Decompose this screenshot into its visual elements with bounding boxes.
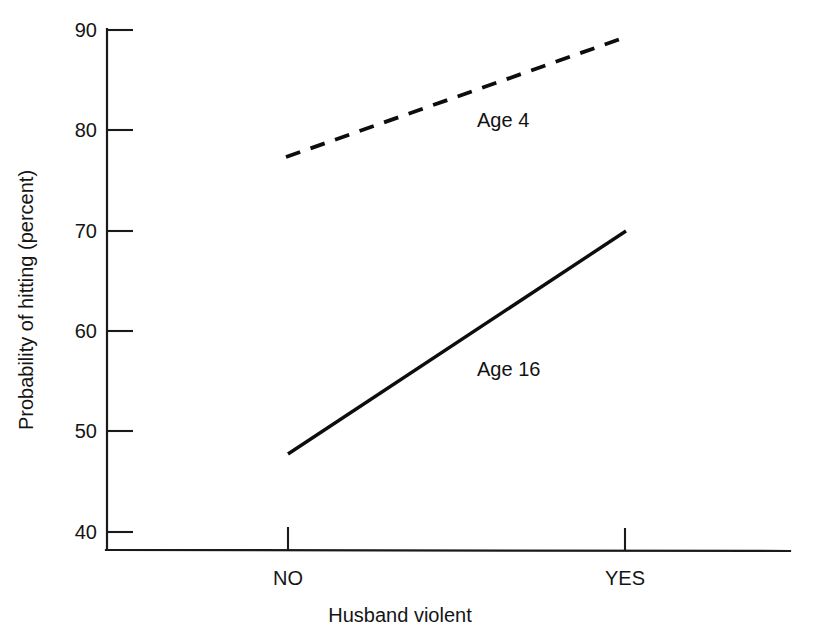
- y-axis: 90 80 70 60 50 40 Probability of hitting…: [15, 19, 133, 549]
- y-axis-title: Probability of hitting (percent): [15, 170, 37, 430]
- series-label-age-16: Age 16: [477, 358, 540, 380]
- y-tick-label-70: 70: [75, 220, 97, 242]
- x-axis: NO YES Husband violent: [106, 527, 790, 626]
- y-tick-label-90: 90: [75, 19, 97, 41]
- x-tick-label-yes: YES: [605, 567, 645, 589]
- series-line-age-4: [286, 37, 626, 157]
- series-label-age-4: Age 4: [477, 109, 529, 131]
- chart-figure: 90 80 70 60 50 40 Probability of hitting…: [0, 0, 825, 638]
- y-tick-label-80: 80: [75, 119, 97, 141]
- line-chart-svg: 90 80 70 60 50 40 Probability of hitting…: [0, 0, 825, 638]
- y-tick-label-50: 50: [75, 420, 97, 442]
- series-age-16: Age 16: [288, 231, 626, 454]
- y-tick-label-60: 60: [75, 320, 97, 342]
- series-age-4: Age 4: [286, 37, 626, 157]
- series-line-age-16: [288, 231, 626, 454]
- y-tick-label-40: 40: [75, 521, 97, 543]
- x-axis-line: [106, 550, 790, 551]
- x-axis-title: Husband violent: [328, 604, 472, 626]
- x-tick-label-no: NO: [273, 567, 303, 589]
